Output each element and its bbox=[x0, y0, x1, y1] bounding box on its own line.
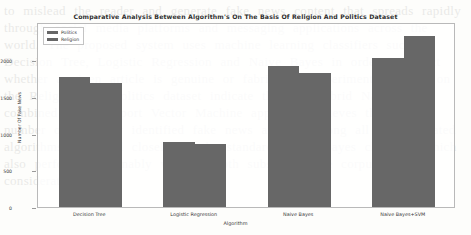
y-tick-mark-2000 bbox=[32, 61, 36, 62]
bar-decision-tree-religion bbox=[90, 83, 121, 207]
x-tick-label-decision-tree: Decision Tree bbox=[73, 211, 106, 217]
bars-layer bbox=[38, 24, 454, 207]
y-tick-label-1500: 1500 bbox=[0, 95, 12, 100]
bar-logistic-regression-religion bbox=[195, 144, 226, 208]
plot-area bbox=[37, 23, 455, 208]
chart-title: Comparative Analysis Between Algorithm's… bbox=[0, 13, 471, 20]
legend-item-religion[interactable]: Religion bbox=[47, 37, 79, 42]
bar-naive-bayes-politics bbox=[268, 66, 299, 207]
y-tick-mark-500 bbox=[32, 171, 36, 172]
legend-label: Politics bbox=[61, 30, 77, 35]
y-tick-label-500: 500 bbox=[0, 169, 12, 174]
legend-swatch-icon bbox=[47, 38, 58, 42]
x-tick-label-logistic-regression: Logistic Regression bbox=[170, 211, 217, 217]
bar-naive-bayes-religion bbox=[299, 73, 330, 207]
y-tick-mark-1500 bbox=[32, 98, 36, 99]
x-tick-label-naive-bayes: Naive Bayes bbox=[283, 211, 313, 217]
chart-legend: PoliticsReligion bbox=[43, 27, 84, 45]
y-tick-label-2000: 2000 bbox=[0, 59, 12, 64]
legend-swatch-icon bbox=[47, 31, 58, 35]
bar-decision-tree-politics bbox=[59, 77, 90, 207]
bar-naive-bayes-svm-politics bbox=[372, 58, 403, 207]
x-tick-label-naive-bayes-svm: Naive Bayes+SVM bbox=[380, 211, 425, 217]
y-axis-label: Number Of Fake News bbox=[17, 63, 22, 173]
y-tick-mark-1000 bbox=[32, 135, 36, 136]
legend-label: Religion bbox=[61, 37, 79, 42]
legend-item-politics[interactable]: Politics bbox=[47, 30, 79, 35]
y-tick-label-1000: 1000 bbox=[0, 132, 12, 137]
y-tick-mark-0 bbox=[32, 208, 36, 209]
bar-naive-bayes-svm-religion bbox=[404, 36, 435, 207]
y-tick-label-0: 0 bbox=[0, 206, 12, 211]
bar-logistic-regression-politics bbox=[163, 142, 194, 207]
chart-figure: Comparative Analysis Between Algorithm's… bbox=[0, 0, 471, 235]
x-axis-label: Algorithm bbox=[0, 220, 471, 226]
